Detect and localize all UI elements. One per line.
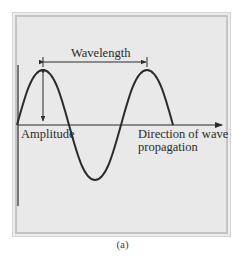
amplitude-label: Amplitude (21, 128, 74, 141)
figure-caption: (a) (0, 238, 245, 250)
direction-label-line2: propagation (138, 141, 198, 154)
wavelength-label: Wavelength (71, 47, 130, 60)
